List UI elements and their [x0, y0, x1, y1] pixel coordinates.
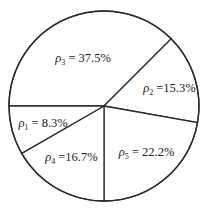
pie-slices	[9, 11, 199, 201]
pie-chart: ρ3 = 37.5%ρ2 =15.3%ρ5 = 22.2%ρ4 =16.7%ρ1…	[0, 0, 207, 214]
